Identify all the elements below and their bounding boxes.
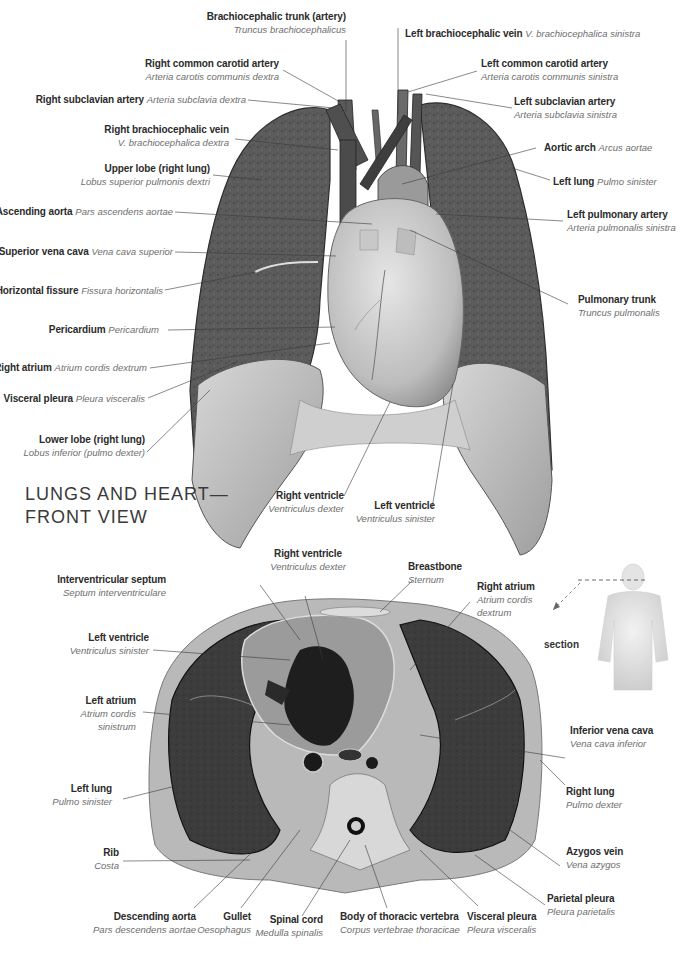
label-right-subclavian: Right subclavian artery Arteria subclavi…: [36, 93, 246, 106]
plate-title: LUNGS AND HEART— FRONT VIEW: [25, 483, 229, 529]
label-left-common-carotid: Left common carotid artery Arteria carot…: [481, 57, 618, 83]
label-right-brachiocephalic-vein: Right brachiocephalic vein V. brachiocep…: [104, 123, 229, 149]
label-horizontal-fissure: Horizontal fissure Fissura horizontalis: [0, 284, 163, 297]
label-left-lung-front: Left lung Pulmo sinister: [553, 175, 657, 188]
label-left-ventricle-section: Left ventricle Ventriculus sinister: [70, 631, 149, 657]
label-left-pulmonary-artery: Left pulmonary artery Arteria pulmonalis…: [567, 208, 676, 234]
label-spinal-cord: Spinal cord Medulla spinalis: [255, 913, 323, 939]
label-lower-lobe: Lower lobe (right lung) Lobus inferior (…: [24, 433, 145, 459]
label-gullet: Gullet Oesophagus: [197, 910, 251, 936]
label-right-common-carotid: Right common carotid artery Arteria caro…: [145, 57, 279, 83]
label-descending-aorta: Descending aorta Pars descendens aortae: [93, 910, 196, 936]
locator-figure: [553, 564, 668, 690]
label-inferior-vena-cava: Inferior vena cava Vena cava inferior: [570, 724, 653, 750]
label-parietal-pleura: Parietal pleura Pleura parietalis: [547, 892, 615, 918]
front-view-illustration: [147, 28, 568, 555]
label-right-ventricle-front: Right ventricle Ventriculus dexter: [268, 489, 344, 515]
label-left-lung-section: Left lung Pulmo sinister: [52, 782, 112, 808]
label-visceral-pleura-front: Visceral pleura Pleura visceralis: [4, 392, 145, 405]
section-locator-label: section: [544, 639, 579, 650]
label-visceral-pleura-section: Visceral pleura Pleura visceralis: [467, 910, 536, 936]
label-pericardium: Pericardium Pericardium: [49, 323, 159, 336]
label-left-subclavian: Left subclavian artery Arteria subclavia…: [514, 95, 617, 121]
label-rib: Rib Costa: [94, 846, 119, 872]
label-right-ventricle-section: Right ventricle Ventriculus dexter: [255, 547, 361, 573]
label-azygos-vein: Azygos vein Vena azygos: [566, 845, 623, 871]
label-brachiocephalic-trunk: Brachiocephalic trunk (artery) Truncus b…: [207, 10, 346, 36]
label-superior-vena-cava: Superior vena cava Vena cava superior: [0, 245, 173, 258]
label-left-atrium: Left atrium Atrium cordis sinistrum: [81, 694, 136, 733]
label-right-lung-section: Right lung Pulmo dexter: [566, 785, 622, 811]
label-vertebra-body: Body of thoracic vertebra Corpus vertebr…: [340, 910, 460, 936]
label-left-ventricle-front: Left ventricle Ventriculus sinister: [356, 499, 435, 525]
label-pulmonary-trunk: Pulmonary trunk Truncus pulmonalis: [578, 293, 660, 319]
label-right-atrium-section: Right atrium Atrium cordis dextrum: [477, 580, 535, 619]
label-aortic-arch: Aortic arch Arcus aortae: [544, 141, 652, 154]
label-upper-lobe: Upper lobe (right lung) Lobus superior p…: [81, 162, 210, 188]
label-right-atrium-front: Right atrium Atrium cordis dextrum: [0, 361, 147, 374]
label-left-brachiocephalic-vein: Left brachiocephalic vein V. brachioceph…: [405, 27, 640, 40]
label-interventricular-septum: Interventricular septum Septum intervent…: [57, 573, 166, 599]
anatomy-plate: Brachiocephalic trunk (artery) Truncus b…: [0, 0, 691, 964]
label-breastbone: Breastbone Sternum: [408, 560, 462, 586]
label-ascending-aorta: Ascending aorta Pars ascendens aortae: [0, 205, 173, 218]
